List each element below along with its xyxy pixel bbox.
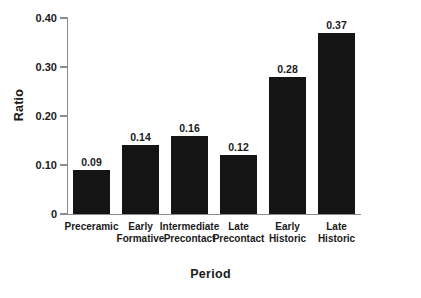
category-label-line: Historic — [303, 233, 371, 245]
y-tick-label: 0.10 — [0, 160, 57, 171]
y-tick-label: 0.20 — [0, 111, 57, 122]
bar-chart-figure: Ratio 00.100.200.300.40 0.090.140.160.12… — [0, 0, 421, 298]
category-label: LateHistoric — [303, 221, 371, 244]
plot-area — [67, 18, 361, 214]
bar[interactable] — [73, 170, 110, 214]
x-axis-title: Period — [0, 267, 421, 281]
category-label-line: Late — [303, 221, 371, 233]
bar[interactable] — [269, 77, 306, 214]
bar-value-label: 0.09 — [67, 157, 117, 168]
y-tick-mark — [60, 115, 67, 116]
y-tick-mark — [60, 66, 67, 67]
y-tick-mark — [60, 213, 67, 214]
bar[interactable] — [171, 136, 208, 214]
bar-value-label: 0.28 — [263, 64, 313, 75]
bar-value-label: 0.12 — [214, 142, 264, 153]
bar[interactable] — [220, 155, 257, 214]
bar[interactable] — [122, 145, 159, 214]
y-tick-label: 0 — [0, 209, 57, 220]
bar-value-label: 0.16 — [165, 123, 215, 134]
y-tick-label: 0.40 — [0, 13, 57, 24]
bar[interactable] — [318, 33, 355, 214]
bar-value-label: 0.37 — [312, 20, 362, 31]
y-axis-title: Ratio — [12, 70, 26, 140]
y-tick-label: 0.30 — [0, 62, 57, 73]
y-tick-mark — [60, 17, 67, 18]
bar-value-label: 0.14 — [116, 132, 166, 143]
